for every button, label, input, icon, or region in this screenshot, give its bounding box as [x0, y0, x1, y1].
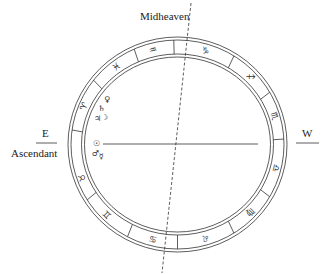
planet-venus-icon: ♀	[104, 95, 110, 104]
sign-divider	[87, 192, 96, 199]
sign-divider	[273, 139, 283, 140]
midheaven-axis	[162, 3, 191, 273]
zodiac-signs: ♈♓♒♑♐♏♎♍♌♋♊♉	[76, 44, 282, 245]
astrological-chart: ♈♓♒♑♐♏♎♍♌♋♊♉ ♀♄♃☽☉♂☿	[0, 0, 327, 274]
ascendant-label: Ascendant	[11, 147, 57, 159]
planet-saturn-icon: ♄	[98, 104, 105, 113]
sign-divider	[261, 190, 270, 197]
outer-ring-1	[68, 37, 287, 252]
planet-sun-icon: ☉	[93, 139, 100, 148]
inner-ring-2	[85, 57, 271, 232]
sign-aquarius-icon: ♒	[148, 44, 158, 56]
planet-mercury-icon: ☿	[99, 152, 104, 161]
planet-moon-icon: ☽	[101, 113, 108, 122]
sign-divider	[228, 221, 234, 233]
sign-leo-icon: ♌	[200, 232, 211, 244]
sign-divider	[228, 56, 234, 68]
inner-ring-1	[82, 54, 274, 235]
sign-cancer-icon: ♋	[148, 233, 158, 245]
sign-libra-icon: ♎	[270, 163, 282, 173]
sign-divider	[72, 130, 82, 132]
midheaven-label: Midheaven	[140, 10, 189, 22]
sign-divider	[261, 92, 270, 99]
sign-capricorn-icon: ♑	[200, 45, 211, 57]
west-label: W	[302, 127, 312, 139]
east-label: E	[42, 127, 49, 139]
sign-divider	[134, 49, 138, 62]
sign-divider	[94, 80, 102, 89]
sign-divider	[128, 224, 133, 236]
sign-scorpio-icon: ♏	[269, 111, 281, 122]
zodiac-rings	[68, 37, 287, 252]
